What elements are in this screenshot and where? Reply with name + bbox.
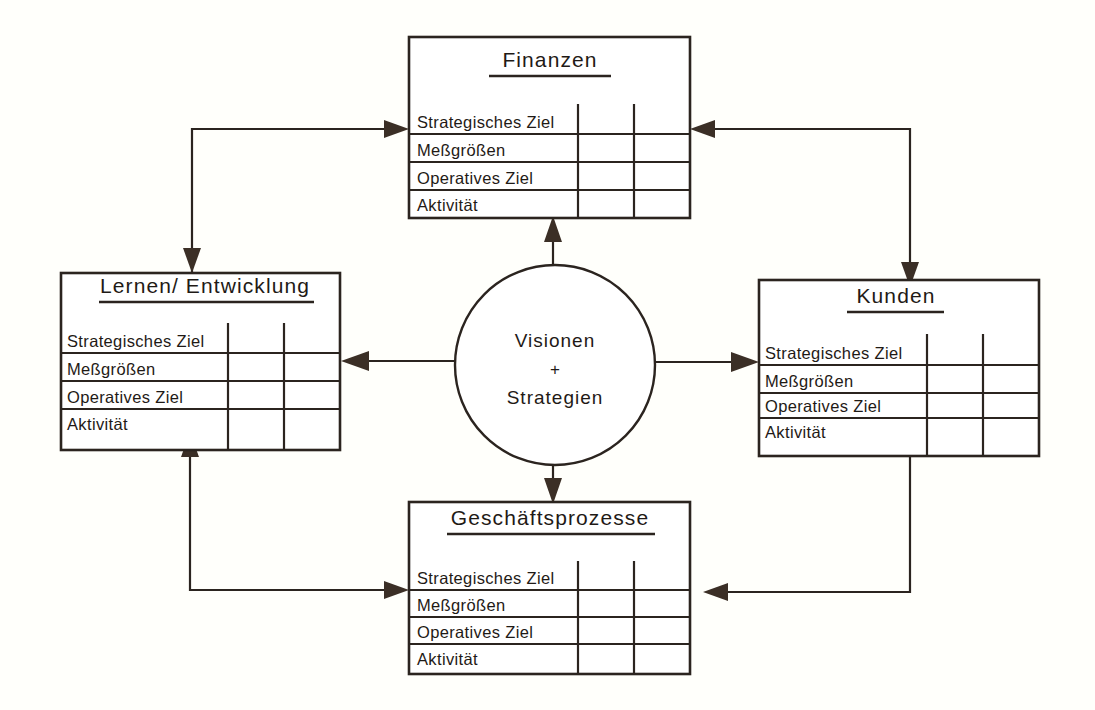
connector-center-customer xyxy=(656,352,759,372)
center-vision-circle[interactable]: Visionen + Strategien xyxy=(455,265,655,465)
connector-center-finance xyxy=(544,216,562,268)
connector-learning-finance xyxy=(183,120,409,290)
arrowhead-left-into-prozesse xyxy=(703,583,728,601)
arrowhead-down-into-prozesse xyxy=(544,478,562,504)
connector-learning-process xyxy=(181,432,409,599)
row-label-operatives-ziel: Operatives Ziel xyxy=(765,397,881,415)
center-label-strategien: Strategien xyxy=(507,387,604,408)
arrowhead-up-into-finanzen xyxy=(544,216,562,242)
arrowhead-down-into-lernen xyxy=(183,248,201,273)
box-title-prozesse: Geschäftsprozesse xyxy=(451,506,649,529)
row-label-operatives-ziel: Operatives Ziel xyxy=(417,169,533,187)
row-label-messgroessen: Meßgrößen xyxy=(67,360,155,378)
row-label-aktivitaet: Aktivität xyxy=(417,196,478,214)
box-title-kunden: Kunden xyxy=(856,284,935,307)
arrowhead-left-into-finanzen xyxy=(690,120,715,138)
arrowhead-right-into-prozesse xyxy=(384,581,409,599)
arrowhead-left-into-lernen xyxy=(341,351,369,371)
box-title-finanzen: Finanzen xyxy=(502,48,597,71)
row-label-aktivitaet: Aktivität xyxy=(417,650,478,668)
connector-finance-customer xyxy=(690,120,919,287)
row-label-messgroessen: Meßgrößen xyxy=(765,372,853,390)
row-label-strategisches-ziel: Strategisches Ziel xyxy=(765,344,902,362)
row-label-operatives-ziel: Operatives Ziel xyxy=(417,623,533,641)
center-label-visionen: Visionen xyxy=(515,330,596,351)
connector-center-process xyxy=(544,462,562,504)
center-label-plus: + xyxy=(550,360,560,379)
arrowhead-right-into-kunden xyxy=(731,352,759,372)
row-label-strategisches-ziel: Strategisches Ziel xyxy=(67,332,204,350)
row-label-aktivitaet: Aktivität xyxy=(67,415,128,433)
box-title-lernen: Lernen/ Entwicklung xyxy=(100,274,310,297)
connector-customer-process xyxy=(703,432,919,601)
row-label-operatives-ziel: Operatives Ziel xyxy=(67,388,183,406)
row-label-messgroessen: Meßgrößen xyxy=(417,596,505,614)
perspective-box-finanzen[interactable]: Finanzen Strategisches Ziel Meßgrößen Op… xyxy=(409,37,690,218)
connector-center-learning xyxy=(341,351,455,371)
perspective-box-lernen-entwicklung[interactable]: Lernen/ Entwicklung Strategisches Ziel M… xyxy=(61,273,340,450)
row-label-strategisches-ziel: Strategisches Ziel xyxy=(417,569,554,587)
connector-path xyxy=(712,129,910,268)
balanced-scorecard-diagram: Finanzen Strategisches Ziel Meßgrößen Op… xyxy=(0,0,1095,710)
perspective-box-kunden[interactable]: Kunden Strategisches Ziel Meßgrößen Oper… xyxy=(759,280,1039,456)
connector-path xyxy=(192,129,387,290)
arrowhead-right-into-finanzen xyxy=(384,120,409,138)
row-label-strategisches-ziel: Strategisches Ziel xyxy=(417,113,554,131)
row-label-aktivitaet: Aktivität xyxy=(765,423,826,441)
perspective-box-geschaeftsprozesse[interactable]: Geschäftsprozesse Strategisches Ziel Meß… xyxy=(409,502,690,674)
row-label-messgroessen: Meßgrößen xyxy=(417,141,505,159)
connector-path xyxy=(190,432,387,590)
diagram-canvas: Finanzen Strategisches Ziel Meßgrößen Op… xyxy=(0,0,1095,710)
